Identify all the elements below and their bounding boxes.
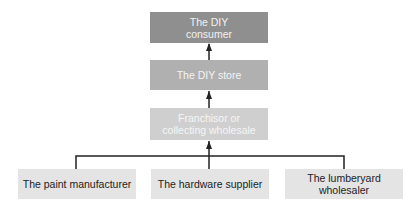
node-label-line: The DIY (186, 16, 232, 28)
node-label: The paint manufacturer (23, 178, 132, 190)
node-label-line: Franchisor or (162, 112, 255, 124)
node-franchisor-wholesale: Franchisor or collecting wholesale (150, 108, 268, 140)
node-label-line: consumer (186, 28, 232, 40)
node-diy-store: The DIY store (150, 60, 268, 90)
node-lumberyard-wholesaler: The lumberyard wholesaler (285, 169, 403, 199)
node-diy-consumer: The DIY consumer (150, 12, 268, 43)
node-label: The hardware supplier (158, 178, 262, 190)
node-hardware-supplier: The hardware supplier (151, 169, 269, 199)
arrowhead-wholesale (206, 141, 212, 149)
arrowhead-store (206, 91, 212, 99)
node-label: The DIY store (177, 69, 242, 81)
node-label-line: collecting wholesale (162, 124, 255, 136)
node-label: The lumberyard wholesaler (285, 172, 403, 196)
node-paint-manufacturer: The paint manufacturer (18, 169, 136, 199)
arrowhead-consumer (206, 43, 212, 51)
supplier-bracket (76, 156, 344, 169)
